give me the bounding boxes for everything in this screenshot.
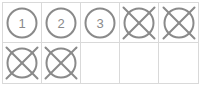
crossed-circle-icon [161, 5, 197, 41]
tally-cell-crossed[interactable] [42, 43, 81, 83]
tally-cell-empty[interactable] [120, 43, 159, 83]
tally-cell-empty[interactable] [159, 43, 198, 83]
cell-number: 3 [96, 16, 103, 31]
crossed-circle-icon [43, 45, 79, 81]
tally-cell-numbered[interactable]: 1 [3, 3, 42, 43]
numbered-circle-icon: 2 [43, 5, 79, 41]
numbered-circle-icon: 1 [4, 5, 40, 41]
tally-cell-crossed[interactable] [3, 43, 42, 83]
tally-cell-empty[interactable] [81, 43, 120, 83]
tally-cell-crossed[interactable] [159, 3, 198, 43]
numbered-circle-icon: 3 [82, 5, 118, 41]
cell-number: 2 [57, 16, 64, 31]
tally-cell-numbered[interactable]: 3 [81, 3, 120, 43]
tally-cell-crossed[interactable] [120, 3, 159, 43]
crossed-circle-icon [121, 5, 157, 41]
tally-grid-widget: 123 [0, 0, 201, 86]
tally-grid: 123 [2, 2, 199, 84]
tally-cell-numbered[interactable]: 2 [42, 3, 81, 43]
crossed-circle-icon [4, 45, 40, 81]
cell-number: 1 [18, 16, 25, 31]
